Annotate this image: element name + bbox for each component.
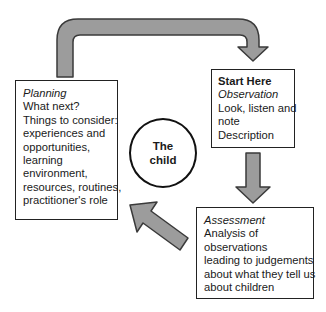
down-arrow-observation-to-assessment	[236, 153, 270, 203]
assessment-line: about what they tell us	[204, 268, 313, 281]
observation-line: Description	[218, 129, 294, 142]
planning-line: opportunities,	[23, 141, 117, 154]
assessment-line: about children	[204, 281, 313, 294]
planning-line: What next?	[23, 100, 117, 113]
planning-box: Planning What next? Things to consider: …	[15, 80, 118, 220]
child-label-line: child	[150, 153, 177, 167]
planning-line: learning	[23, 154, 117, 167]
child-center-circle: The child	[129, 118, 197, 188]
planning-title: Planning	[23, 87, 117, 100]
planning-line: experiences and	[23, 127, 117, 140]
planning-line: environment,	[23, 167, 117, 180]
assessment-line: leading to judgements	[204, 254, 313, 267]
observation-box: Start Here Observation Look, listen and …	[211, 69, 295, 148]
planning-line: resources, routines,	[23, 181, 117, 194]
assessment-title: Assessment	[204, 214, 313, 227]
assessment-line: Analysis of	[204, 227, 313, 240]
assessment-box: Assessment Analysis of observations lead…	[196, 207, 314, 299]
assessment-line: observations	[204, 241, 313, 254]
observation-line: Look, listen and	[218, 102, 294, 115]
observation-title: Observation	[218, 88, 294, 101]
child-label-line: The	[153, 139, 173, 153]
observation-line: note	[218, 115, 294, 128]
planning-line: practitioner's role	[23, 194, 117, 207]
start-here-heading: Start Here	[218, 75, 294, 88]
planning-line: Things to consider:	[23, 114, 117, 127]
diagonal-arrow-assessment-to-planning	[130, 202, 188, 250]
